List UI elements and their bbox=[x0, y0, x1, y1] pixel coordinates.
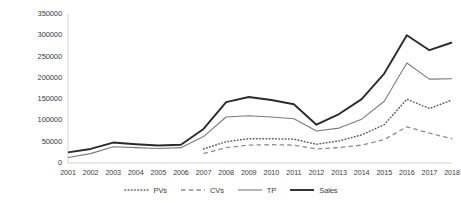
legend-label: CVs bbox=[210, 186, 224, 195]
legend-label: PVs bbox=[154, 186, 167, 195]
y-axis-tick-label: 350000 bbox=[0, 9, 62, 18]
axis-layer bbox=[68, 14, 452, 163]
x-axis-tick-label: 2018 bbox=[439, 168, 461, 177]
series-line-pvs bbox=[204, 99, 452, 149]
y-axis-tick-label: 50000 bbox=[0, 137, 62, 146]
chart-legend: PVsCVsTPSales bbox=[0, 183, 461, 197]
line-chart: 0500001000001500002000002500003000003500… bbox=[0, 0, 461, 203]
legend-swatch-tp-icon bbox=[237, 186, 263, 194]
legend-swatch-sales-icon bbox=[289, 186, 315, 194]
legend-item-tp[interactable]: TP bbox=[237, 186, 276, 195]
legend-swatch-cvs-icon bbox=[180, 186, 206, 194]
y-axis-tick-label: 150000 bbox=[0, 94, 62, 103]
legend-label: Sales bbox=[319, 186, 337, 195]
legend-label: TP bbox=[267, 186, 276, 195]
legend-item-sales[interactable]: Sales bbox=[289, 186, 337, 195]
y-axis-tick-label: 0 bbox=[0, 158, 62, 167]
y-axis-tick-label: 300000 bbox=[0, 30, 62, 39]
legend-item-cvs[interactable]: CVs bbox=[180, 186, 224, 195]
series-line-sales bbox=[68, 35, 452, 152]
y-axis-tick-label: 250000 bbox=[0, 52, 62, 61]
legend-item-pvs[interactable]: PVs bbox=[124, 186, 167, 195]
y-axis-tick-label: 100000 bbox=[0, 115, 62, 124]
y-axis-tick-label: 200000 bbox=[0, 73, 62, 82]
legend-swatch-pvs-icon bbox=[124, 186, 150, 194]
series-layer bbox=[68, 35, 452, 157]
